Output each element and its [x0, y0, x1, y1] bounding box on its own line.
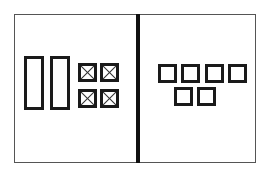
tall-rectangle [50, 56, 70, 110]
cross-icon [103, 92, 116, 105]
empty-square [181, 64, 200, 83]
crossed-box [78, 63, 97, 82]
empty-square [158, 64, 177, 83]
empty-square [197, 87, 216, 106]
crossed-box [78, 89, 97, 108]
empty-square [228, 64, 247, 83]
empty-square [174, 87, 193, 106]
center-divider [136, 14, 140, 163]
empty-square [205, 64, 224, 83]
cross-icon [81, 66, 94, 79]
cross-icon [81, 92, 94, 105]
tall-rectangle [24, 56, 44, 110]
crossed-box [100, 63, 119, 82]
crossed-box [100, 89, 119, 108]
cross-icon [103, 66, 116, 79]
